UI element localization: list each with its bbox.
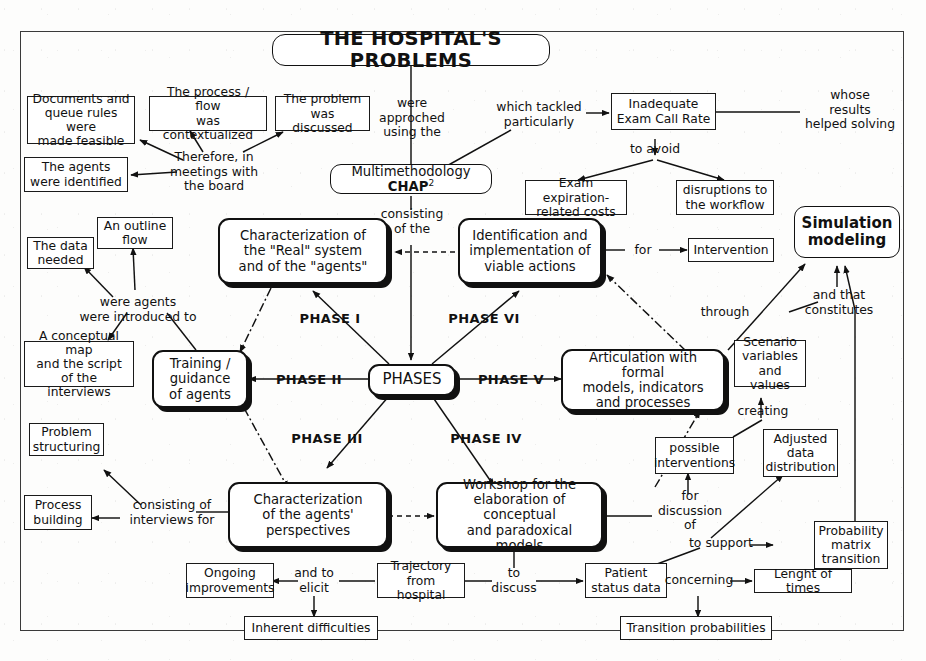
node-characterization-agents-perspectives: Characterization of the agents' perspect… [228, 482, 388, 548]
edge-label-consisting-of-interviews-for: consisting of interviews for [117, 498, 227, 527]
edge-label-which-tackled-particularly: which tackled particularly [489, 100, 589, 129]
node-identification-viable-actions: Identification and implementation of via… [458, 218, 602, 284]
node-transition-probabilities: Transition probabilities [620, 616, 772, 640]
multimethodology-text: Multimethodology [351, 164, 470, 179]
edge-label-consisting-of-the: consisting of the [377, 207, 447, 236]
edge-label-for-discussion-of: for discussion of [657, 489, 723, 533]
node-workshop-conceptual-paradoxical: Workshop for the elaboration of conceptu… [436, 482, 603, 548]
node-disruptions-workflow: disruptions to the workflow [676, 180, 774, 215]
edge-label-and-to-elicit: and to elicit [285, 566, 343, 595]
edge-label-phase-1: PHASE I [290, 311, 370, 326]
node-process-flow-contextualized: The process / flow was contextualized [149, 96, 267, 131]
node-simulation-modeling: Simulation modeling [794, 206, 900, 258]
edge-label-through: through [694, 305, 756, 320]
node-conceptual-map-script: A conceptual map and the script of the i… [24, 341, 134, 387]
edge-label-to-support: to support [688, 536, 754, 551]
node-adjusted-data-distribution: Adjusted data distribution [763, 429, 838, 477]
node-scenario-variables-values: Scenario variables and values [734, 340, 806, 387]
node-an-outline-flow: An outline flow [97, 217, 173, 249]
edge-label-phase-2: PHASE II [264, 372, 354, 387]
node-probability-matrix-transition: Probability matrix transition [814, 521, 888, 569]
edge-label-phase-6: PHASE VI [438, 311, 530, 326]
node-trajectory-from-hospital: Trajectory from hospital [377, 563, 465, 598]
chap-superscript: 2 [428, 178, 434, 188]
node-possible-interventions: possible interventions [655, 437, 734, 474]
node-lenght-of-times: Lenght of times [754, 569, 852, 593]
edge-label-to-avoid: to avoid [622, 142, 688, 157]
node-intervention: Intervention [688, 238, 774, 262]
edge-label-phase-4: PHASE IV [440, 431, 532, 446]
node-characterization-real-system: Characterization of the "Real" system an… [218, 218, 388, 284]
node-inadequate-exam-call-rate: Inadequate Exam Call Rate [611, 93, 716, 130]
diagram-title: THE HOSPITAL'S PROBLEMS [272, 34, 550, 66]
edge-label-were-approched-using-the: were approched using the [372, 96, 452, 140]
node-inherent-difficulties: Inherent difficulties [244, 616, 378, 640]
node-agents-were-identified: The agents were identified [24, 157, 128, 192]
edge-label-and-that-constitutes: and that constitutes [801, 288, 877, 317]
node-multimethodology-chap2: Multimethodology CHAP2 [330, 164, 492, 194]
node-documents-queue-rules: Documents and queue rules were made feas… [27, 96, 135, 144]
edge-label-creating: creating [733, 404, 793, 419]
node-the-data-needed: The data needed [27, 237, 94, 269]
node-problem-was-discussed: The problem was discussed [275, 96, 370, 131]
edge-label-phase-5: PHASE V [467, 372, 555, 387]
node-phases-center: PHASES [368, 364, 456, 396]
node-exam-expiration-costs: Exam expiration- related costs [525, 180, 627, 215]
node-problem-structuring: Problem structuring [29, 423, 104, 456]
node-patient-status-data: Patient status data [585, 563, 667, 598]
node-training-guidance-agents: Training / guidance of agents [152, 350, 248, 408]
diagram-canvas: THE HOSPITAL'S PROBLEMS Documents and qu… [0, 0, 926, 661]
edge-label-were-agents-introduced-to: were agents were introduced to [75, 295, 201, 324]
edge-label-for-intervention: for [628, 243, 658, 258]
chap-label: CHAP [388, 179, 429, 194]
edge-label-phase-3: PHASE III [281, 431, 373, 446]
edge-label-concerning: concerning [663, 573, 735, 588]
edge-label-to-discuss: to discuss [487, 566, 541, 595]
node-process-building: Process building [24, 495, 92, 530]
node-ongoing-improvements: Ongoing improvements [186, 563, 274, 598]
edge-label-therefore-in-meetings: Therefore, in meetings with the board [168, 150, 260, 194]
node-articulation-formal-models: Articulation with formal models, indicat… [561, 349, 725, 411]
edge-label-whose-results-helped-solving: whose results helped solving [798, 88, 902, 132]
